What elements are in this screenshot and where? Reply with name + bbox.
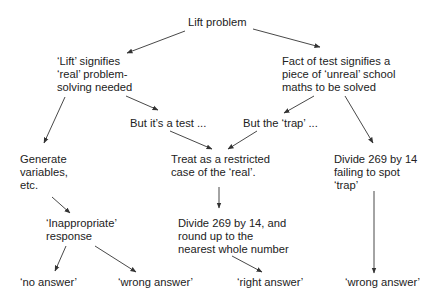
node-divide-round-up: Divide 269 by 14, and round up to the ne… (178, 217, 289, 256)
node-line: ‘right answer’ (237, 276, 303, 289)
node-wrong-answer-right: ‘wrong answer’ (345, 276, 420, 289)
node-line: Fact of test signifies a (282, 55, 395, 68)
node-line: Lift problem (188, 16, 246, 29)
node-line: Divide 269 by 14 (334, 153, 417, 166)
node-wrong-answer-left: ‘wrong answer’ (118, 276, 193, 289)
node-line: response (46, 230, 117, 243)
node-test-signifies-unreal: Fact of test signifies a piece of ‘unrea… (282, 55, 395, 94)
node-generate-variables: Generate variables, etc. (20, 153, 68, 192)
edge-divide-round-to-right-answer (232, 256, 262, 272)
node-line: case of the ‘real’. (171, 166, 270, 179)
edge-inappropriate-to-no-answer (55, 246, 66, 271)
node-line: solving needed (57, 81, 132, 94)
edge-but-trap-to-treat (228, 131, 257, 149)
node-line: But it’s a test ... (130, 117, 206, 130)
edge-root-to-lift-real (127, 31, 185, 53)
node-lift-signifies-real: ‘Lift’ signifies ‘real’ problem- solving… (57, 55, 132, 94)
node-line: Divide 269 by 14, and (178, 217, 289, 230)
edge-test-unreal-to-but-trap (284, 96, 314, 113)
node-line: failing to spot (334, 166, 417, 179)
node-line: But the ‘trap’ ... (243, 117, 318, 130)
node-line: round up to the (178, 230, 289, 243)
node-but-the-trap: But the ‘trap’ ... (243, 117, 318, 130)
node-line: etc. (20, 179, 68, 192)
node-line: ‘trap’ (334, 179, 417, 192)
node-line: nearest whole number (178, 243, 289, 256)
node-but-its-a-test: But it’s a test ... (130, 117, 206, 130)
edge-lift-real-to-but-test (126, 96, 158, 110)
node-line: maths to be solved (282, 81, 395, 94)
node-line: ‘no answer’ (20, 276, 77, 289)
node-treat-restricted: Treat as a restricted case of the ‘real’… (171, 153, 270, 179)
edge-inappropriate-to-wrong-answer (95, 246, 136, 272)
node-no-answer: ‘no answer’ (20, 276, 77, 289)
edge-lift-real-to-generate (44, 97, 65, 143)
edge-generate-to-inappropriate (52, 197, 70, 213)
node-inappropriate-response: ‘Inappropriate’ response (46, 217, 117, 243)
node-line: Generate (20, 153, 68, 166)
node-line: ‘wrong answer’ (118, 276, 193, 289)
node-line: ‘wrong answer’ (345, 276, 420, 289)
node-divide-failing-trap: Divide 269 by 14 failing to spot ‘trap’ (334, 153, 417, 192)
diagram-canvas: Lift problem ‘Lift’ signifies ‘real’ pro… (0, 0, 441, 306)
node-line: ‘Inappropriate’ (46, 217, 117, 230)
node-line: ‘real’ problem- (57, 68, 132, 81)
node-line: ‘Lift’ signifies (57, 55, 132, 68)
node-lift-problem: Lift problem (188, 16, 246, 29)
node-line: piece of ‘unreal’ school (282, 68, 395, 81)
node-right-answer: ‘right answer’ (237, 276, 303, 289)
edge-test-unreal-to-divide-fail (345, 96, 373, 143)
node-line: Treat as a restricted (171, 153, 270, 166)
edge-but-test-to-treat (170, 131, 212, 149)
node-line: variables, (20, 166, 68, 179)
edge-root-to-test-unreal (253, 29, 320, 47)
